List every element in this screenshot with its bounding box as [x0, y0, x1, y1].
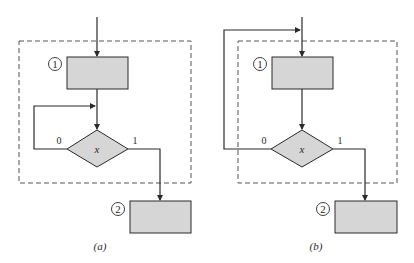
- box-2-number: 2: [115, 203, 121, 215]
- box-2-number: 2: [320, 203, 326, 215]
- flowchart-diagram: 1 x 0 1 2 (a) 1 x 0 1: [0, 0, 414, 263]
- panel-caption: (a): [94, 240, 107, 253]
- box-1-number: 1: [52, 58, 58, 70]
- process-box-2: [130, 201, 191, 233]
- branch-false-label: 0: [57, 135, 62, 146]
- process-box-2: [335, 201, 397, 233]
- box-1-number: 1: [257, 58, 263, 70]
- panel-caption: (b): [310, 240, 323, 253]
- panel-b: 1 x 0 1 2 (b): [224, 17, 397, 253]
- branch-false-label: 0: [262, 135, 267, 146]
- exit-arrow: [333, 149, 365, 200]
- decision-label: x: [299, 143, 305, 155]
- branch-true-label: 1: [133, 135, 138, 146]
- decision-label: x: [94, 143, 100, 155]
- process-box-1: [272, 57, 333, 89]
- branch-true-label: 1: [338, 135, 343, 146]
- exit-arrow: [128, 149, 160, 200]
- process-box-1: [67, 57, 128, 89]
- panel-a: 1 x 0 1 2 (a): [19, 17, 191, 253]
